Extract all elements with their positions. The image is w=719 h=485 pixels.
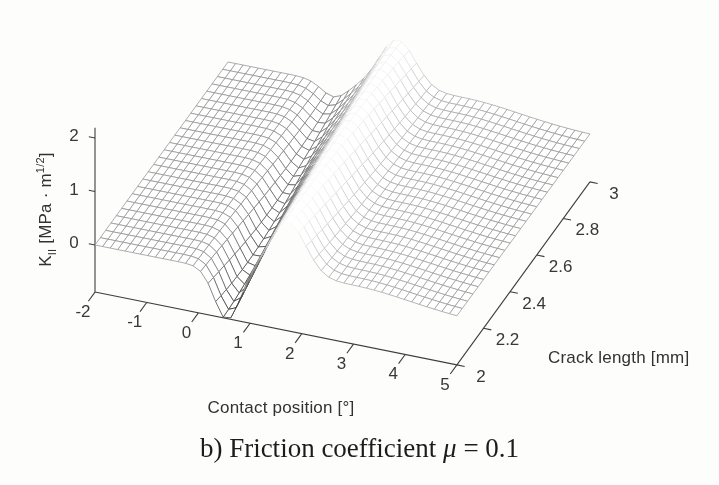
caption-value: = 0.1 xyxy=(457,433,519,463)
z-axis-tick-label: 2 xyxy=(69,126,78,146)
figure-3d-surface-plot: KII [MPa · m1/2] Contact position [°] Cr… xyxy=(0,0,719,485)
z-axis-label: KII [MPa · m1/2] xyxy=(34,126,57,294)
y-axis-label: Crack length [mm] xyxy=(548,348,708,368)
x-axis-tick-label: 0 xyxy=(182,323,191,343)
x-axis-tick-label: 5 xyxy=(440,375,449,395)
z-label-unit-close: ] xyxy=(36,152,55,157)
y-axis-tick-label: 2.4 xyxy=(522,294,546,314)
z-label-symbol: K xyxy=(36,255,55,267)
z-label-exponent: 1/2 xyxy=(34,157,46,173)
z-label-subscript: II xyxy=(46,249,58,256)
y-axis-tick-label: 2 xyxy=(476,367,485,387)
z-axis-tick-label: 1 xyxy=(69,180,78,200)
z-axis-tick-label: 0 xyxy=(69,233,78,253)
caption-mu-symbol: μ xyxy=(443,433,457,463)
x-axis-tick-label: 4 xyxy=(388,364,397,384)
y-axis-tick-label: 3 xyxy=(609,184,618,204)
x-axis-tick-label: -2 xyxy=(75,302,90,322)
y-axis-tick-label: 2.6 xyxy=(549,257,573,277)
x-axis-tick-label: 2 xyxy=(285,344,294,364)
figure-caption: b) Friction coefficient μ = 0.1 xyxy=(0,433,719,464)
y-axis-tick-label: 2.8 xyxy=(575,220,599,240)
z-label-unit: [MPa · m xyxy=(36,173,55,248)
x-axis-label: Contact position [°] xyxy=(196,398,366,418)
caption-text: b) Friction coefficient xyxy=(200,433,443,463)
x-axis-tick-label: -1 xyxy=(127,312,142,332)
x-axis-tick-label: 3 xyxy=(337,354,346,374)
x-axis-tick-label: 1 xyxy=(233,333,242,353)
y-axis-tick-label: 2.2 xyxy=(496,330,520,350)
